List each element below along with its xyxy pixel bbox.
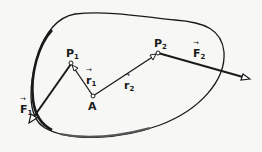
- vector-F1: [33, 64, 71, 118]
- label-r2: r2: [124, 80, 134, 93]
- point-P1-icon: [69, 61, 73, 65]
- label-P2: P2: [154, 38, 167, 51]
- label-P1: P1: [66, 48, 79, 61]
- label-r1: r1: [86, 75, 96, 88]
- r2-arrowhead-icon: [150, 54, 156, 60]
- F2-arrowhead-icon: [241, 74, 250, 80]
- label-F2: F2: [193, 48, 205, 61]
- r1-arrowhead-icon: [72, 65, 78, 71]
- diagram-canvas: [0, 0, 262, 152]
- label-A: A: [88, 101, 97, 112]
- point-P2-icon: [156, 51, 160, 55]
- point-A-icon: [91, 94, 95, 98]
- label-F1: F1: [20, 104, 32, 117]
